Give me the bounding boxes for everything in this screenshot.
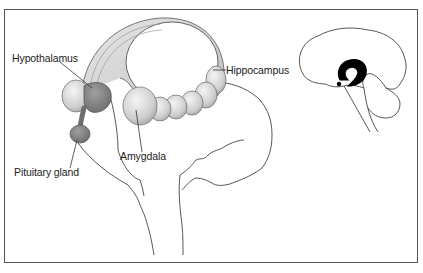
label-hippocampus: Hippocampus <box>226 64 289 76</box>
label-hypothalamus: Hypothalamus <box>12 52 78 64</box>
amygdala-structure <box>123 87 157 125</box>
inset-brain <box>299 28 406 132</box>
label-pituitary-gland: Pituitary gland <box>14 166 79 178</box>
hypothalamus-structure <box>62 80 111 112</box>
pituitary-leader <box>70 140 77 168</box>
inset-limbic-highlight <box>337 60 367 87</box>
limbic-system-illustration <box>0 0 423 273</box>
label-amygdala: Amygdala <box>120 150 166 162</box>
pituitary-structure <box>70 108 90 143</box>
